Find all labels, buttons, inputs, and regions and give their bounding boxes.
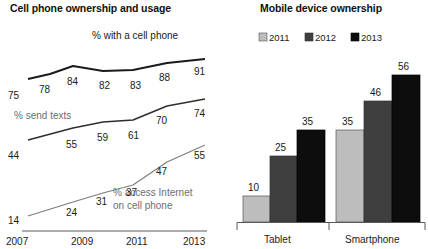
annotation-access-internet-line1: % access Internet <box>113 187 193 198</box>
value-label-texts-2007: 44 <box>8 150 20 161</box>
bar-tablet-2012 <box>270 156 297 222</box>
bar-smartphone-2011 <box>336 130 364 222</box>
legend-label-2013: 2013 <box>361 32 382 43</box>
value-label-internet-2011: 37 <box>126 187 138 198</box>
value-label-cell-2009: 84 <box>67 76 79 87</box>
value-label-cell-2013: 91 <box>194 66 206 77</box>
x-tick-2007: 2007 <box>6 236 29 247</box>
series-line-cell-phone <box>28 59 205 79</box>
bar-value-tablet-2011: 10 <box>248 182 260 193</box>
legend-label-2011: 2011 <box>269 32 289 43</box>
x-tick-2011: 2011 <box>126 236 148 247</box>
legend-swatch-2011 <box>259 33 267 41</box>
value-label-internet-2013: 55 <box>194 150 206 161</box>
value-label-texts-2012: 70 <box>156 115 168 126</box>
x-tick-2009: 2009 <box>71 236 94 247</box>
bar-tablet-2013 <box>297 130 325 222</box>
x-tick-2013: 2013 <box>183 236 206 247</box>
bar-smartphone-2013 <box>392 75 420 222</box>
annotation-send-texts: % send texts <box>14 110 71 121</box>
value-label-internet-2010: 31 <box>96 196 108 207</box>
value-label-texts-2009: 55 <box>66 139 78 150</box>
value-label-cell-2010: 82 <box>99 80 111 91</box>
bar-chart-svg: 2011 2012 2013 10 25 35 35 46 56 Tablet … <box>234 0 428 249</box>
bar-value-smartphone-2012: 46 <box>370 87 382 98</box>
bar-tablet-2011 <box>243 196 270 222</box>
bar-smartphone-2012 <box>364 101 392 222</box>
mobile-device-ownership-chart-panel: Mobile device ownership 2011 2012 2013 1… <box>234 0 428 249</box>
value-label-cell-2012: 88 <box>159 72 171 83</box>
bar-value-tablet-2013: 35 <box>302 116 314 127</box>
value-label-cell-2007: 75 <box>8 90 20 101</box>
line-chart-svg: % with a cell phone % send texts % acces… <box>0 0 234 249</box>
value-label-internet-2007: 14 <box>8 215 20 226</box>
legend-swatch-2013 <box>351 33 359 41</box>
annotation-access-internet-line2: on cell phone <box>113 200 173 211</box>
bar-value-tablet-2012: 25 <box>275 142 287 153</box>
value-label-internet-2012: 47 <box>156 166 168 177</box>
annotation-cell-phone: % with a cell phone <box>92 30 179 41</box>
legend-swatch-2012 <box>305 33 313 41</box>
cell-phone-usage-chart-panel: Cell phone ownership and usage % with a … <box>0 0 234 249</box>
value-label-texts-2013: 74 <box>194 108 206 119</box>
value-label-texts-2011: 61 <box>128 130 140 141</box>
bar-value-smartphone-2011: 35 <box>342 116 354 127</box>
bar-value-smartphone-2013: 56 <box>398 61 410 72</box>
category-label-tablet: Tablet <box>264 234 291 245</box>
value-label-cell-2008: 78 <box>39 84 51 95</box>
value-label-texts-2010: 59 <box>97 132 109 143</box>
legend-label-2012: 2012 <box>315 32 336 43</box>
category-label-smartphone: Smartphone <box>345 234 400 245</box>
value-label-cell-2011: 83 <box>130 80 142 91</box>
value-label-internet-2009: 24 <box>66 207 78 218</box>
